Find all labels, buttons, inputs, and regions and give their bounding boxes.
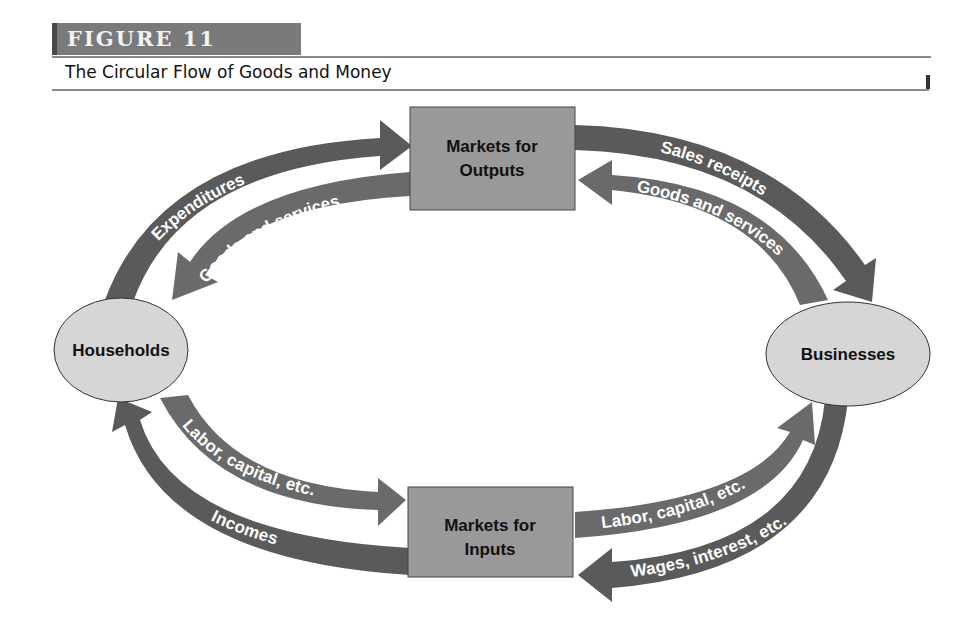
markets-outputs-line2: Outputs	[459, 161, 524, 180]
markets-inputs-line2: Inputs	[465, 540, 516, 559]
arrow-goods-from-businesses: Goods and services	[578, 160, 828, 305]
node-businesses: Businesses	[766, 302, 930, 406]
markets-outputs-line1: Markets for	[446, 137, 538, 156]
label-labor-from-households: Labor, capital, etc.	[179, 416, 317, 500]
markets-inputs-line1: Markets for	[444, 516, 536, 535]
node-households: Households	[54, 298, 188, 402]
businesses-label: Businesses	[801, 345, 896, 364]
node-markets-outputs: Markets for Outputs	[410, 107, 575, 210]
node-markets-inputs: Markets for Inputs	[408, 487, 573, 577]
circular-flow-diagram: Expenditures Goods and services Sales re…	[0, 0, 977, 621]
households-label: Households	[72, 341, 169, 360]
